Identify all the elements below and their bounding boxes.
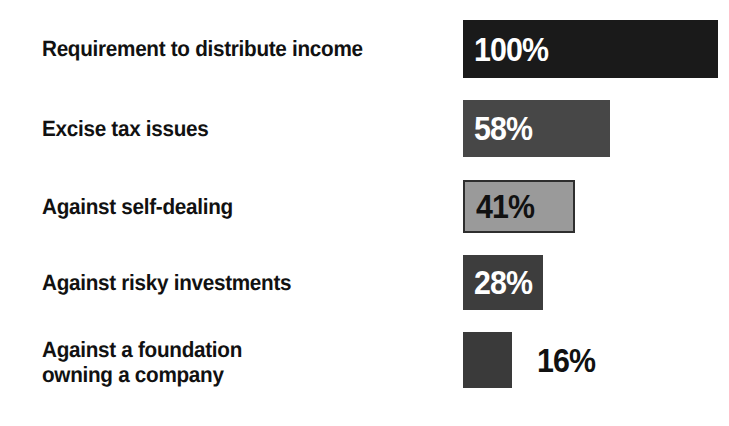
bar-value-label: 28% [474, 266, 532, 299]
bar-against-self-dealing: 41% [463, 180, 575, 233]
bar-value-label: 41% [476, 190, 534, 223]
category-label: Excise tax issues [42, 116, 427, 141]
bar-against-a-foundation-owning-a-company [463, 332, 512, 388]
bar-chart: Requirement to distribute income 100% Ex… [0, 0, 729, 426]
chart-row: Against a foundation owning a company 16… [0, 332, 729, 388]
chart-row: Against risky investments 28% [0, 255, 729, 310]
chart-row: Excise tax issues 58% [0, 100, 729, 157]
bar-value-label: 100% [474, 33, 548, 66]
category-label: Against risky investments [42, 270, 427, 295]
bar-value-label: 16% [537, 344, 595, 377]
category-label: Against self-dealing [42, 194, 427, 219]
chart-row: Requirement to distribute income 100% [0, 20, 729, 78]
bar-against-risky-investments: 28% [463, 255, 543, 310]
bar-value-label: 58% [474, 112, 532, 145]
bar-excise-tax-issues: 58% [463, 100, 610, 157]
chart-row: Against self-dealing 41% [0, 180, 729, 233]
bar-requirement-to-distribute-income: 100% [463, 20, 718, 78]
category-label: Against a foundation owning a company [42, 337, 427, 387]
category-label: Requirement to distribute income [42, 36, 427, 61]
